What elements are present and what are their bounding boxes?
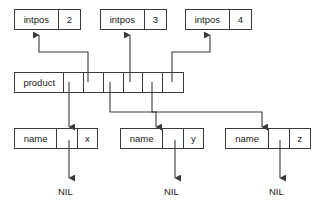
name-node-x-pointer-cell[interactable] [57, 129, 77, 148]
name-node-z-pointer-cell[interactable] [269, 129, 289, 148]
nil-label-x: NIL [58, 187, 73, 197]
nil-label-z: NIL [269, 187, 284, 197]
product-node[interactable]: product [14, 72, 184, 93]
diagram-canvas: intpos 2 intpos 3 intpos 4 product name … [0, 0, 327, 215]
product-pointer-cell-2[interactable] [84, 73, 104, 92]
name-node-x-value: x [78, 129, 97, 148]
product-node-label: product [15, 73, 64, 92]
name-node-y-value: y [184, 129, 203, 148]
product-pointer-cell-5[interactable] [143, 73, 163, 92]
name-node-x[interactable]: name x [14, 128, 98, 149]
intpos-node-2-value: 3 [145, 10, 166, 29]
name-node-y-label: name [121, 129, 163, 148]
name-node-z-label: name [226, 129, 269, 148]
intpos-node-2[interactable]: intpos 3 [100, 9, 167, 30]
name-node-y-pointer-cell[interactable] [163, 129, 183, 148]
product-pointer-cell-6[interactable] [163, 73, 183, 92]
product-pointer-cell-4[interactable] [124, 73, 144, 92]
name-node-z-value: z [290, 129, 310, 148]
product-pointer-cell-3[interactable] [104, 73, 124, 92]
name-node-y[interactable]: name y [120, 128, 204, 149]
name-node-x-label: name [15, 129, 57, 148]
intpos-node-3-label: intpos [186, 10, 230, 29]
name-node-z[interactable]: name z [225, 128, 311, 149]
nil-label-y: NIL [164, 187, 179, 197]
intpos-node-1[interactable]: intpos 2 [14, 9, 81, 30]
intpos-node-1-value: 2 [59, 10, 80, 29]
product-pointer-cell-1[interactable] [64, 73, 84, 92]
connector-lines-layer [0, 0, 327, 215]
intpos-node-3[interactable]: intpos 4 [185, 9, 252, 30]
intpos-node-3-value: 4 [230, 10, 251, 29]
intpos-node-1-label: intpos [15, 10, 59, 29]
intpos-node-2-label: intpos [101, 10, 145, 29]
